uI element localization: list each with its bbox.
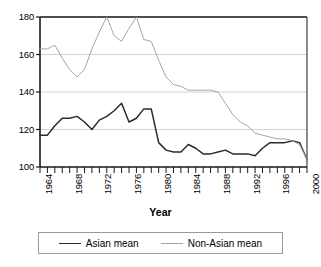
x-axis-tick-label: 1992 bbox=[252, 174, 262, 194]
y-axis-tick-label: 180 bbox=[8, 12, 34, 22]
x-axis-tick-label: 1984 bbox=[192, 174, 202, 194]
chart-legend: Asian meanNon-Asian mean bbox=[38, 232, 283, 254]
x-axis-title: Year bbox=[0, 206, 321, 218]
x-axis-tick-label: 2000 bbox=[311, 174, 321, 194]
legend-line-swatch-icon bbox=[59, 243, 81, 244]
x-axis-tick-labels: 1964196819721976198019841988199219962000 bbox=[0, 170, 321, 210]
y-axis-tick-label: 160 bbox=[8, 50, 34, 60]
legend-item[interactable]: Asian mean bbox=[59, 238, 139, 249]
x-axis-tick-label: 1996 bbox=[281, 174, 291, 194]
x-axis-tick-label: 1964 bbox=[44, 174, 54, 194]
legend-item-label: Non-Asian mean bbox=[188, 238, 262, 249]
x-axis-tick-label: 1968 bbox=[74, 174, 84, 194]
y-axis-tick-label: 140 bbox=[8, 87, 34, 97]
y-axis-tick-labels: 180160140120100 bbox=[8, 0, 34, 190]
x-axis-tick-label: 1976 bbox=[133, 174, 143, 194]
chart-canvas bbox=[0, 0, 321, 190]
data-series-group bbox=[40, 17, 307, 160]
gridlines bbox=[40, 17, 307, 130]
y-axis-tick-label: 120 bbox=[8, 125, 34, 135]
chart-figure: 180160140120100 196419681972197619801984… bbox=[0, 0, 321, 267]
legend-item-label: Asian mean bbox=[86, 238, 139, 249]
x-axis-tick-label: 1988 bbox=[222, 174, 232, 194]
legend-line-swatch-icon bbox=[161, 243, 183, 244]
legend-item[interactable]: Non-Asian mean bbox=[161, 238, 262, 249]
x-axis-tick-label: 1980 bbox=[163, 174, 173, 194]
x-axis-tick-label: 1972 bbox=[103, 174, 113, 194]
plot-area: 180160140120100 bbox=[0, 0, 321, 190]
